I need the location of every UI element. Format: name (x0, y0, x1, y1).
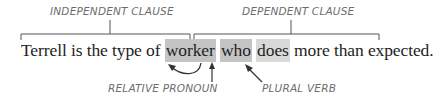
up-arrow-icon (209, 62, 215, 82)
relative-pronoun-label: RELATIVE PRONOUN (108, 82, 218, 94)
independent-clause-bracket (21, 20, 190, 40)
dependent-clause-bracket (194, 20, 379, 40)
plural-verb-word: does (256, 39, 290, 62)
diagonal-arrow-icon (245, 64, 262, 82)
plural-verb-label: PLURAL VERB (262, 82, 336, 94)
antecedent-word: worker (165, 39, 216, 62)
example-sentence: Terrell is the type of worker who does m… (21, 40, 434, 61)
sentence-end: more than expected. (290, 40, 434, 60)
relative-pronoun-word: who (220, 39, 252, 62)
curved-arrow-icon (168, 63, 201, 74)
sentence-start: Terrell is the type of (21, 40, 165, 60)
